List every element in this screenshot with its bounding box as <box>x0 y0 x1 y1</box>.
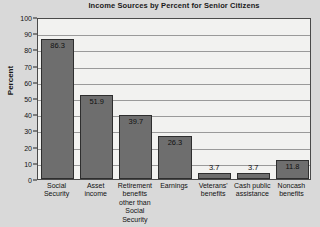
x-axis-label-line: Retirement <box>115 182 154 190</box>
y-axis-tick-label: 40 <box>4 112 32 119</box>
y-axis-ticks: 0102030405060708090100 <box>0 18 37 180</box>
bar-slot: 86.3 <box>38 19 77 179</box>
bar-series: 86.351.939.726.33.73.711.8 <box>38 19 310 179</box>
y-axis-tick-label: 100 <box>4 15 32 22</box>
bar-value-label: 86.3 <box>38 41 77 50</box>
bar-slot: 51.9 <box>77 19 116 179</box>
bar-slot: 3.7 <box>234 19 273 179</box>
y-axis-tick-label: 60 <box>4 79 32 86</box>
x-axis-category-label: Retirementbenefitsother thanSocial Secur… <box>115 182 154 224</box>
y-axis-tick-label: 90 <box>4 31 32 38</box>
x-axis-label-line: benefits <box>115 190 154 198</box>
bar-value-label: 51.9 <box>77 97 116 106</box>
x-axis-label-line: assistance <box>233 190 272 198</box>
bar-slot: 3.7 <box>195 19 234 179</box>
y-axis-tick-label: 80 <box>4 47 32 54</box>
x-axis-label-line: benefits <box>194 190 233 198</box>
bar[interactable] <box>198 173 231 179</box>
bar[interactable] <box>41 39 74 179</box>
bar-chart: Income Sources by Percent for Senior Cit… <box>0 0 320 227</box>
x-axis-category-label: Assetincome <box>76 182 115 199</box>
bar-value-label: 39.7 <box>116 117 155 126</box>
y-axis-tick-label: 0 <box>4 177 32 184</box>
x-axis-label-line: benefits <box>272 190 311 198</box>
y-axis-tick-label: 10 <box>4 160 32 167</box>
x-axis-label-line: Security <box>37 190 76 198</box>
bar-value-label: 11.8 <box>273 162 312 171</box>
x-axis-label-line: Cash public <box>233 182 272 190</box>
x-axis-label-line: Earnings <box>154 182 193 190</box>
x-axis-label-line: Veterans' <box>194 182 233 190</box>
x-axis-label-line: Social Security <box>115 207 154 224</box>
bar[interactable] <box>80 95 113 179</box>
bar-value-label: 26.3 <box>155 138 194 147</box>
bar-value-label: 3.7 <box>195 163 234 172</box>
bar[interactable] <box>237 173 270 179</box>
x-axis-category-label: Noncashbenefits <box>272 182 311 199</box>
x-axis-category-label: Cash publicassistance <box>233 182 272 199</box>
x-axis-category-label: SocialSecurity <box>37 182 76 199</box>
x-axis-label-line: Noncash <box>272 182 311 190</box>
y-axis-tick-label: 20 <box>4 144 32 151</box>
bar-slot: 39.7 <box>116 19 155 179</box>
chart-title: Income Sources by Percent for Senior Cit… <box>37 1 311 10</box>
x-axis-category-label: Earnings <box>154 182 193 190</box>
x-axis-label-line: Social <box>37 182 76 190</box>
x-axis-labels: SocialSecurityAssetincomeRetirementbenef… <box>37 182 311 227</box>
y-axis-tick-label: 30 <box>4 128 32 135</box>
bar-slot: 26.3 <box>155 19 194 179</box>
y-axis-tick-label: 70 <box>4 63 32 70</box>
bar-value-label: 3.7 <box>234 163 273 172</box>
y-axis-tick-label: 50 <box>4 96 32 103</box>
plot-area: 86.351.939.726.33.73.711.8 <box>37 18 311 180</box>
x-axis-label-line: Asset <box>76 182 115 190</box>
bar-slot: 11.8 <box>273 19 312 179</box>
x-axis-label-line: income <box>76 190 115 198</box>
x-axis-category-label: Veterans'benefits <box>194 182 233 199</box>
x-axis-label-line: other than <box>115 199 154 207</box>
